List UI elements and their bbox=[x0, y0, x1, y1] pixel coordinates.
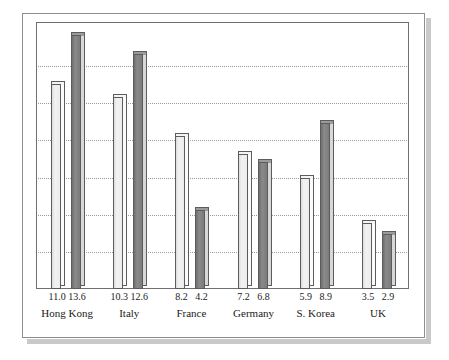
bar-value-label: 13.6 bbox=[60, 291, 94, 302]
bar-front-face bbox=[300, 178, 310, 289]
bars-layer bbox=[37, 23, 410, 290]
bar-front-face bbox=[133, 54, 143, 289]
bar-front-face bbox=[195, 210, 205, 289]
bar-value-label: 6.8 bbox=[247, 291, 281, 302]
bar-value-label: 8.9 bbox=[309, 291, 343, 302]
bar-dark-germany bbox=[258, 159, 272, 289]
bar-side-face bbox=[248, 151, 252, 286]
bar-light-france bbox=[175, 133, 189, 289]
bar-front-face bbox=[320, 123, 330, 289]
bar-side-face bbox=[392, 231, 396, 286]
bar-front-face bbox=[382, 234, 392, 289]
bar-front-face bbox=[238, 154, 248, 289]
bar-front-face bbox=[175, 136, 185, 289]
bar-front-face bbox=[71, 35, 81, 289]
bar-light-uk bbox=[362, 220, 376, 289]
bar-light-s-korea bbox=[300, 175, 314, 289]
bar-side-face bbox=[205, 207, 209, 286]
bar-side-face bbox=[310, 175, 314, 286]
frame-drop-shadow-bottom bbox=[27, 339, 431, 344]
bar-dark-s-korea bbox=[320, 120, 334, 289]
bar-dark-italy bbox=[133, 51, 147, 289]
bar-side-face bbox=[330, 120, 334, 286]
bar-side-face bbox=[61, 81, 65, 286]
bar-front-face bbox=[113, 97, 123, 289]
category-label: UK bbox=[323, 307, 433, 319]
bar-light-italy bbox=[113, 94, 127, 289]
bar-value-label: 4.2 bbox=[184, 291, 218, 302]
figure-container: 11.013.6Hong Kong10.312.6Italy8.24.2Fran… bbox=[0, 0, 449, 360]
bar-dark-hong-kong bbox=[71, 32, 85, 289]
bar-side-face bbox=[81, 32, 85, 286]
bar-front-face bbox=[362, 223, 372, 289]
axis-labels: 11.013.6Hong Kong10.312.6Italy8.24.2Fran… bbox=[36, 289, 409, 337]
frame-drop-shadow-right bbox=[426, 18, 431, 343]
bar-dark-uk bbox=[382, 231, 396, 289]
bar-side-face bbox=[143, 51, 147, 286]
bar-value-label: 12.6 bbox=[122, 291, 156, 302]
bar-value-label: 2.9 bbox=[371, 291, 405, 302]
bar-front-face bbox=[258, 162, 268, 289]
bar-side-face bbox=[372, 220, 376, 286]
bar-light-hong-kong bbox=[51, 81, 65, 289]
bar-side-face bbox=[123, 94, 127, 286]
bar-light-germany bbox=[238, 151, 252, 289]
bar-front-face bbox=[51, 84, 61, 289]
bar-side-face bbox=[185, 133, 189, 286]
bar-side-face bbox=[268, 159, 272, 286]
bar-dark-france bbox=[195, 207, 209, 289]
plot-area bbox=[36, 22, 409, 289]
